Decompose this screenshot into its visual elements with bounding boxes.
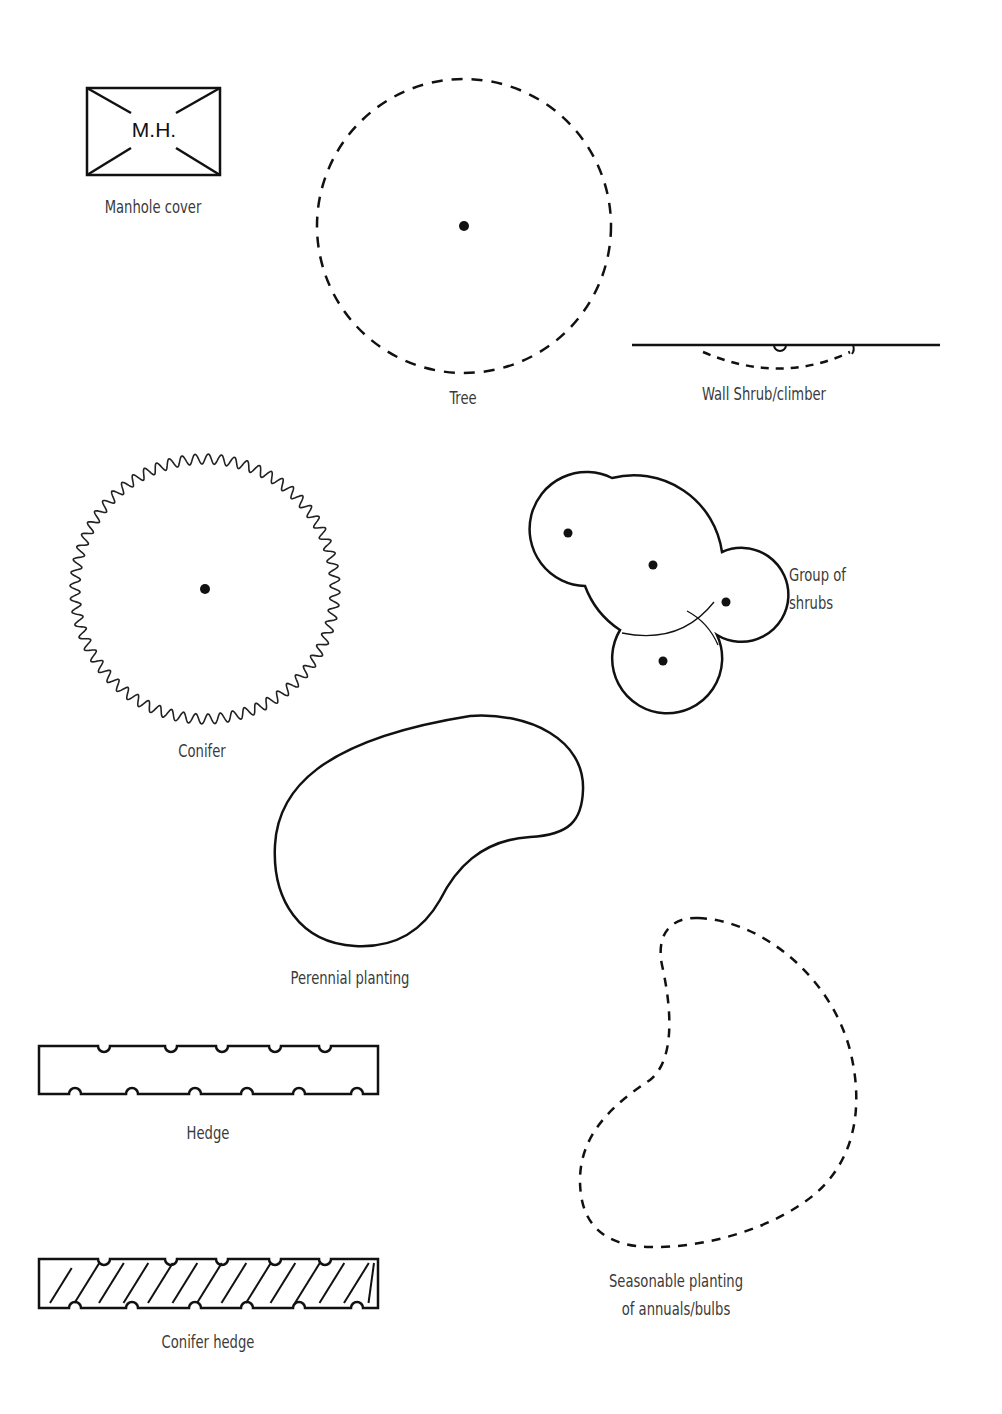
tree-symbol	[317, 79, 611, 373]
seasonal-planting-symbol	[580, 918, 856, 1247]
hedge-label: Hedge	[187, 1122, 230, 1144]
shrub-group-label-line1: Group of	[789, 564, 846, 586]
garden-plan-symbol-legend: M.H. Manhole cover Tree Wall Shrub/climb…	[0, 0, 1002, 1414]
conifer-symbol	[70, 454, 340, 724]
conifer-hedge-label: Conifer hedge	[162, 1331, 255, 1353]
tree-label: Tree	[449, 387, 476, 409]
wall-shrub-label: Wall Shrub/climber	[702, 383, 826, 405]
conifer-hedge-symbol	[39, 1259, 378, 1308]
shrub-group-label-line2: shrubs	[789, 592, 833, 614]
shrub-group-symbol	[530, 472, 789, 713]
perennial-planting-label: Perennial planting	[291, 967, 410, 989]
wall-shrub-symbol	[632, 345, 940, 369]
perennial-planting-symbol	[275, 716, 583, 947]
manhole-cover-label: Manhole cover	[105, 196, 202, 218]
hedge-symbol	[39, 1046, 378, 1094]
manhole-inner-text: M.H.	[132, 118, 176, 142]
conifer-label: Conifer	[178, 740, 225, 762]
seasonal-planting-label-line2: of annuals/bulbs	[622, 1298, 730, 1320]
seasonal-planting-label-line1: Seasonable planting	[609, 1270, 743, 1292]
